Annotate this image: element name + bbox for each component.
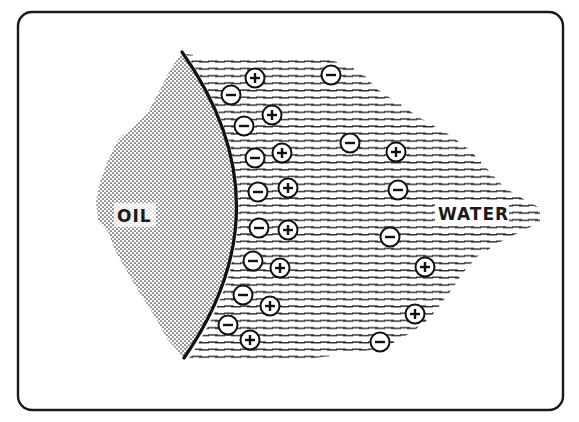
negative-ion-icon (381, 228, 400, 247)
positive-ion-icon (279, 221, 298, 240)
negative-ion-icon (246, 149, 265, 168)
negative-ion-icon (234, 286, 253, 305)
positive-ion-icon (241, 331, 260, 350)
positive-ion-icon (406, 305, 425, 324)
positive-ion-icon (273, 144, 292, 163)
negative-ion-icon (371, 333, 390, 352)
positive-ion-icon (387, 143, 406, 162)
negative-ion-icon (235, 117, 254, 136)
water-label: WATER (438, 204, 509, 224)
negative-ion-icon (389, 181, 408, 200)
positive-ion-icon (263, 106, 282, 125)
positive-ion-icon (246, 69, 265, 88)
negative-ion-icon (250, 219, 269, 238)
negative-ion-icon (322, 66, 341, 85)
negative-ion-icon (222, 86, 241, 105)
negative-ion-icon (219, 316, 238, 335)
negative-ion-icon (249, 183, 268, 202)
negative-ion-icon (244, 252, 263, 271)
positive-ion-icon (271, 259, 290, 278)
positive-ion-icon (416, 258, 435, 277)
negative-ion-icon (341, 134, 360, 153)
positive-ion-icon (261, 297, 280, 316)
oil-water-diagram: OIL WATER (0, 0, 579, 422)
oil-label: OIL (117, 206, 152, 226)
positive-ion-icon (279, 179, 298, 198)
